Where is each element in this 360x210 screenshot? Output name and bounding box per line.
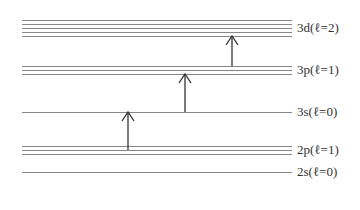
level-label-2p: 2p(ℓ=1) xyxy=(297,143,339,157)
level-2p xyxy=(22,147,292,155)
transition-arrow-icon xyxy=(226,36,238,66)
level-3p xyxy=(22,67,292,75)
level-3d xyxy=(22,21,292,37)
level-label-3d: 3d(ℓ=2) xyxy=(297,21,339,35)
transition-arrow-icon xyxy=(122,112,134,150)
level-label-3s: 3s(ℓ=0) xyxy=(297,105,337,119)
level-label-2s: 2s(ℓ=0) xyxy=(297,165,337,179)
energy-level-diagram: 3d(ℓ=2) 3p(ℓ=1) 3s(ℓ=0) 2p(ℓ=1) 2s(ℓ=0) xyxy=(0,0,360,210)
level-label-3p: 3p(ℓ=1) xyxy=(297,63,339,77)
transition-arrow-icon xyxy=(179,74,191,112)
